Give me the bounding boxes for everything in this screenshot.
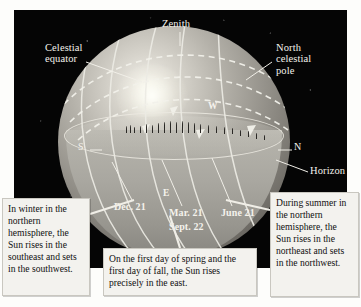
label-north-celestial-pole: North celestial pole <box>276 42 311 76</box>
label-zenith: Zenith <box>162 18 190 29</box>
caption-winter: In winter in the northern hemisphere, th… <box>2 198 90 296</box>
label-west: W <box>208 101 218 111</box>
leader-mar-21 <box>162 160 182 206</box>
label-sun-path-december: Dec. 21 <box>114 202 146 213</box>
label-sun-path-september: Sept. 22 <box>169 222 204 233</box>
leader-dec-21 <box>112 162 132 200</box>
label-south: S <box>78 142 84 153</box>
leader-june-21 <box>212 158 232 206</box>
caption-equinox: On the first day of spring and the first… <box>103 248 257 296</box>
leader-horizon <box>276 160 308 172</box>
label-sun-path-march: Mar. 21 <box>169 208 203 219</box>
label-sun-path-june: June 21 <box>221 208 255 219</box>
caption-summer: During summer in the northern hemisphere… <box>270 192 359 297</box>
figure-page: Zenith Celestial equator North celestial… <box>0 0 361 307</box>
leader-celestial-equator <box>86 62 142 82</box>
label-north: N <box>294 142 301 153</box>
label-celestial-equator: Celestial equator <box>45 42 83 65</box>
leader-north-celestial-pole <box>246 62 272 80</box>
label-horizon: Horizon <box>310 165 345 176</box>
label-east: E <box>163 188 169 198</box>
